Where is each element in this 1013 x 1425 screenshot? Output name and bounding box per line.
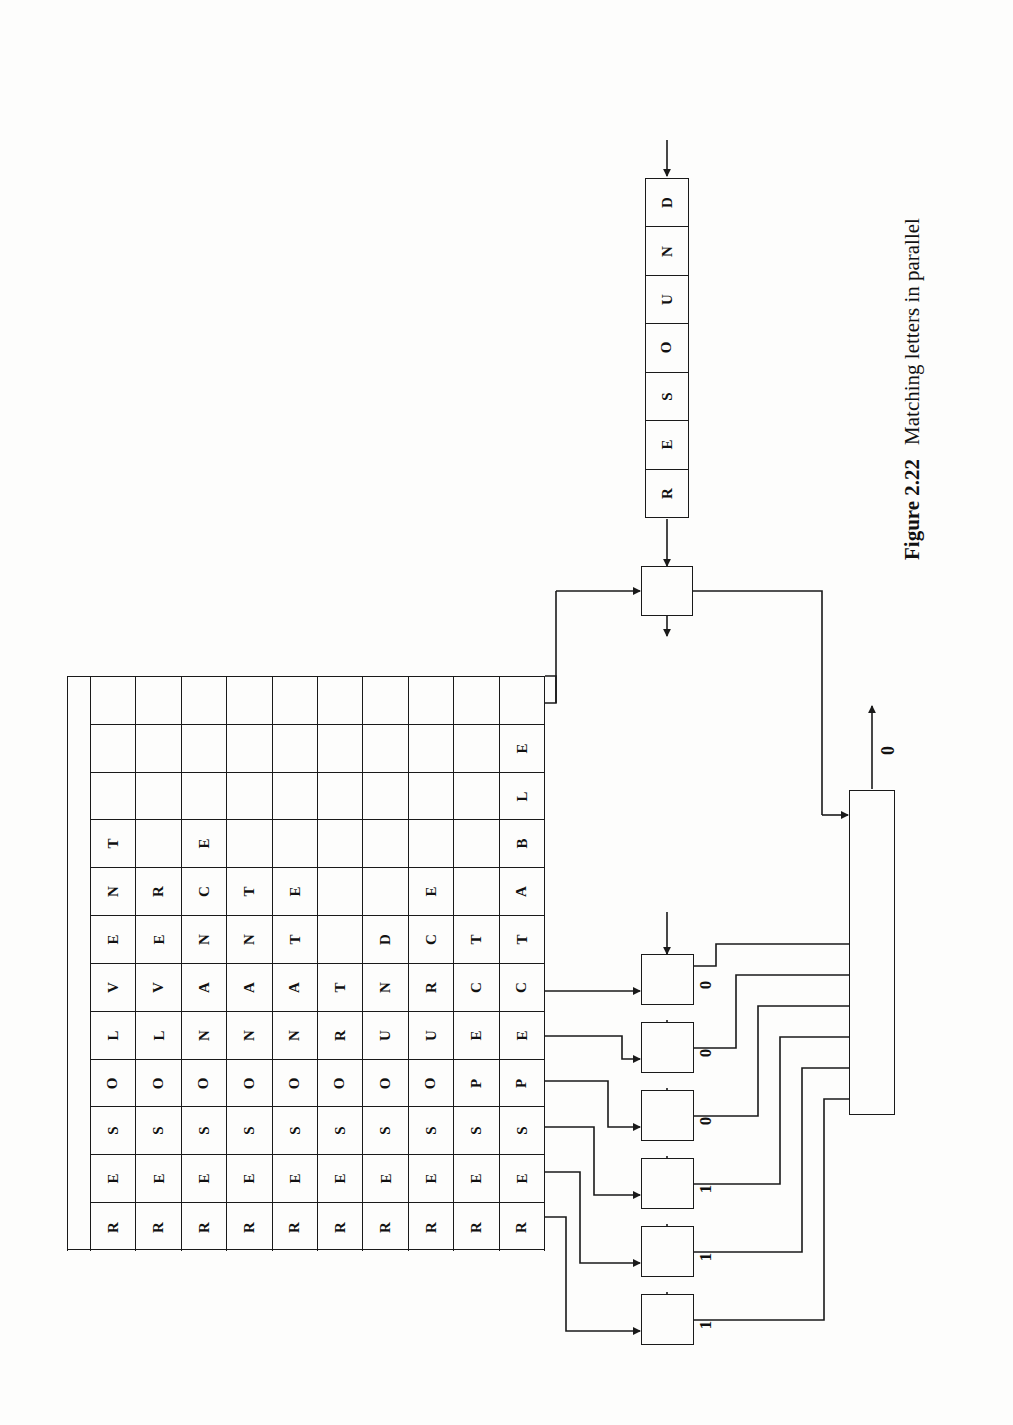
dictionary-cell: L xyxy=(91,1012,136,1060)
dictionary-cell: U xyxy=(363,1012,408,1060)
dictionary-letter: S xyxy=(333,1127,348,1135)
register-cell: S xyxy=(646,373,688,421)
dictionary-cell: E xyxy=(91,1155,136,1203)
dictionary-cell xyxy=(318,725,363,773)
dictionary-letter: E xyxy=(469,1174,484,1184)
dictionary-letter: N xyxy=(242,934,257,945)
dictionary-letter: S xyxy=(514,1127,529,1135)
dictionary-cell: V xyxy=(91,964,136,1012)
dictionary-cell: E xyxy=(318,1155,363,1203)
dictionary-letter: A xyxy=(196,982,211,993)
dictionary-letter: O xyxy=(287,1077,302,1089)
dictionary-cell: S xyxy=(318,1107,363,1155)
comparator-box-5 xyxy=(641,1226,694,1277)
dictionary-cell: E xyxy=(273,1155,318,1203)
grid-margin-cell xyxy=(67,773,91,821)
dictionary-cell: R xyxy=(318,1012,363,1060)
dictionary-cell: O xyxy=(182,1060,227,1108)
grid-margin-cell xyxy=(67,964,91,1012)
dictionary-cell: L xyxy=(500,773,545,821)
dictionary-cell: A xyxy=(500,868,545,916)
dictionary-cell xyxy=(409,725,454,773)
dictionary-cell xyxy=(227,820,272,868)
dictionary-letter: R xyxy=(514,1222,529,1233)
dictionary-cell: E xyxy=(500,725,545,773)
dictionary-cell xyxy=(182,773,227,821)
dictionary-letter: S xyxy=(242,1127,257,1135)
dictionary-letter: R xyxy=(242,1222,257,1233)
dictionary-cell xyxy=(409,820,454,868)
comparator-bit-4: 1 xyxy=(696,1185,716,1194)
dictionary-cell: R xyxy=(136,1203,181,1251)
dictionary-letter: E xyxy=(287,887,302,897)
dictionary-letter: E xyxy=(514,743,529,753)
dictionary-cell: S xyxy=(409,1107,454,1155)
dictionary-letter: E xyxy=(423,887,438,897)
dictionary-letter: S xyxy=(378,1127,393,1135)
dictionary-cell: C xyxy=(182,868,227,916)
match-collector-box xyxy=(849,790,895,1115)
dictionary-letter: N xyxy=(196,934,211,945)
dictionary-letter: A xyxy=(514,886,529,897)
dictionary-cell xyxy=(500,677,545,725)
dictionary-cell: C xyxy=(454,964,499,1012)
dictionary-cell: A xyxy=(227,964,272,1012)
dictionary-cell: O xyxy=(363,1060,408,1108)
dictionary-cell xyxy=(182,725,227,773)
dictionary-cell xyxy=(363,773,408,821)
dictionary-letter: A xyxy=(242,982,257,993)
dictionary-letter: N xyxy=(106,886,121,897)
dictionary-letter: O xyxy=(378,1077,393,1089)
dictionary-cell: C xyxy=(409,916,454,964)
dictionary-cell xyxy=(454,820,499,868)
dictionary-letter: E xyxy=(469,1030,484,1040)
dictionary-cell: E xyxy=(454,1012,499,1060)
dictionary-letter: S xyxy=(287,1127,302,1135)
dictionary-cell: E xyxy=(363,1155,408,1203)
dictionary-cell: E xyxy=(136,916,181,964)
dictionary-letter: E xyxy=(287,1174,302,1184)
dictionary-cell: R xyxy=(363,1203,408,1251)
dictionary-cell xyxy=(91,773,136,821)
dictionary-letter: L xyxy=(106,1030,121,1040)
figure-number: Figure 2.22 xyxy=(900,459,924,560)
dictionary-cell: E xyxy=(409,868,454,916)
match-output-bit: 0 xyxy=(878,746,899,755)
dictionary-cell xyxy=(454,773,499,821)
dictionary-letter: N xyxy=(242,1030,257,1041)
dictionary-cell xyxy=(454,868,499,916)
dictionary-cell: D xyxy=(363,916,408,964)
dictionary-letter: N xyxy=(287,1030,302,1041)
dictionary-letter: E xyxy=(196,1174,211,1184)
dictionary-letter: E xyxy=(333,1174,348,1184)
grid-margin-cell xyxy=(67,1107,91,1155)
dictionary-letter: T xyxy=(469,935,484,945)
dictionary-cell: N xyxy=(182,916,227,964)
comparator-bit-5: 1 xyxy=(696,1253,716,1262)
dictionary-cell xyxy=(363,677,408,725)
comparator-bit-2: 0 xyxy=(696,1049,716,1058)
dictionary-cell xyxy=(227,677,272,725)
dictionary-cell xyxy=(318,773,363,821)
dictionary-letter: P xyxy=(469,1078,484,1087)
grid-margin-cell xyxy=(67,868,91,916)
dictionary-cell: S xyxy=(454,1107,499,1155)
dictionary-cell xyxy=(91,677,136,725)
dictionary-cell: R xyxy=(273,1203,318,1251)
dictionary-cell: O xyxy=(91,1060,136,1108)
dictionary-cell: P xyxy=(454,1060,499,1108)
dictionary-cell: A xyxy=(273,964,318,1012)
figure-page: D N U O S E R ELTEBNRCTEEAEENNTDCTTVVAAA… xyxy=(0,0,1013,1425)
dictionary-letter: O xyxy=(333,1077,348,1089)
dictionary-cell xyxy=(409,773,454,821)
dictionary-letter: R xyxy=(333,1030,348,1041)
dictionary-letter: A xyxy=(287,982,302,993)
dictionary-letter: E xyxy=(196,839,211,849)
dictionary-cell: C xyxy=(500,964,545,1012)
dictionary-cell xyxy=(363,725,408,773)
dictionary-cell xyxy=(91,725,136,773)
dictionary-cell xyxy=(318,820,363,868)
register-letter: N xyxy=(660,246,675,257)
dictionary-cell: R xyxy=(454,1203,499,1251)
dictionary-letter: C xyxy=(514,982,529,993)
